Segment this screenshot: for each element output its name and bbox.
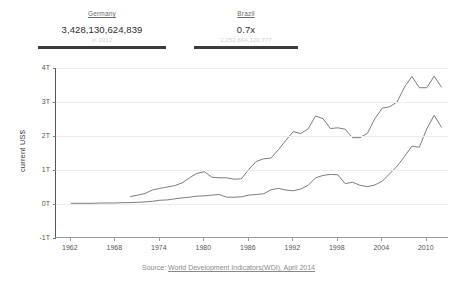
- y-tick-mark: [53, 68, 56, 69]
- y-tick-mark: [53, 136, 56, 137]
- gridline: [56, 68, 448, 69]
- x-tick-label: 1962: [62, 244, 78, 251]
- y-tick-label: 2T: [26, 132, 50, 139]
- x-tick-mark: [248, 238, 249, 241]
- x-tick-label: 1992: [284, 244, 300, 251]
- stat-subtext-germany: in 2012: [22, 37, 182, 43]
- y-tick-mark: [53, 170, 56, 171]
- source-prefix: Source:: [142, 264, 166, 271]
- x-tick-mark: [114, 238, 115, 241]
- series-line-brazil: [71, 115, 442, 203]
- plot-area: 4T3T2T1T0T-1T: [55, 68, 448, 238]
- stat-value-germany: 3,428,130,624,839: [22, 24, 182, 35]
- x-tick-label: 1998: [329, 244, 345, 251]
- gridline: [56, 170, 448, 171]
- gridline: [56, 102, 448, 103]
- x-tick-label: 1968: [107, 244, 123, 251]
- stat-block-brazil: Brazil 0.7x 2,252,664,120,777: [186, 10, 306, 49]
- stat-underline-bar-brazil: [194, 46, 298, 49]
- y-tick-label: -1T: [26, 234, 50, 241]
- x-tick-mark: [337, 238, 338, 241]
- source-line: Source: World Development Indicators(WDI…: [0, 264, 457, 271]
- x-tick-mark: [203, 238, 204, 241]
- x-tick-mark: [381, 238, 382, 241]
- stat-country-link-germany[interactable]: Germany: [22, 10, 182, 17]
- line-chart: current US$ 4T3T2T1T0T-1T 19621968197419…: [0, 68, 457, 253]
- x-tick-mark: [159, 238, 160, 241]
- x-tick-mark: [70, 238, 71, 241]
- gridline: [56, 204, 448, 205]
- x-tick-label: 2010: [418, 244, 434, 251]
- y-tick-label: 0T: [26, 200, 50, 207]
- y-tick-mark: [53, 102, 56, 103]
- x-tick-mark: [292, 238, 293, 241]
- x-tick-label: 1974: [151, 244, 167, 251]
- gridline: [56, 136, 448, 137]
- y-tick-label: 1T: [26, 166, 50, 173]
- stat-block-germany: Germany 3,428,130,624,839 in 2012: [22, 10, 182, 49]
- x-tick-label: 1980: [196, 244, 212, 251]
- x-tick-label: 2004: [373, 244, 389, 251]
- stat-header: Germany 3,428,130,624,839 in 2012 Brazil…: [0, 10, 457, 49]
- y-tick-label: 4T: [26, 64, 50, 71]
- x-axis-ticks: 196219681974198019861992199820042010: [55, 238, 448, 258]
- stat-underline-bar-germany: [38, 46, 166, 49]
- stat-country-link-brazil[interactable]: Brazil: [186, 10, 306, 17]
- y-tick-mark: [53, 204, 56, 205]
- y-tick-label: 3T: [26, 98, 50, 105]
- stat-value-brazil: 0.7x: [186, 24, 306, 35]
- x-tick-label: 1986: [240, 244, 256, 251]
- source-link[interactable]: World Development Indicators(WDI), April…: [168, 264, 315, 271]
- x-tick-mark: [426, 238, 427, 241]
- series-lines: [56, 68, 449, 238]
- stat-subtext-brazil: 2,252,664,120,777: [186, 37, 306, 43]
- y-axis-label: current US$: [18, 116, 27, 186]
